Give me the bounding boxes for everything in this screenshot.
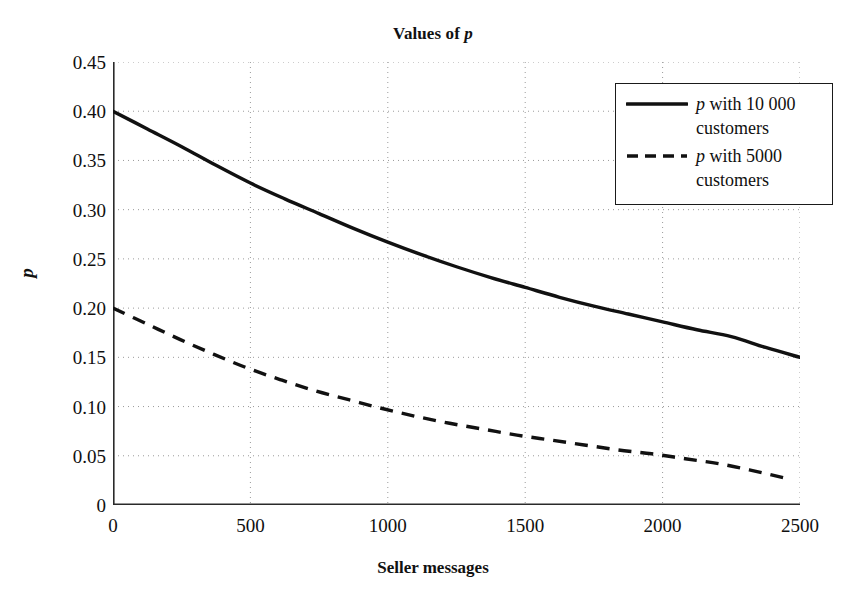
x-axis-title: Seller messages xyxy=(0,558,866,578)
x-tick-label: 1500 xyxy=(485,516,565,535)
x-axis-tick-labels: 05001000150020002500 xyxy=(113,516,800,542)
chart-title: Values of p xyxy=(0,24,866,44)
chart-legend: p with 10 000 customers p with 5000 cust… xyxy=(615,83,833,205)
legend-label-solid: p with 10 000 customers xyxy=(696,92,828,140)
y-axis-tick-labels: 00.050.100.150.200.250.300.350.400.45 xyxy=(36,62,106,505)
x-tick-label: 1000 xyxy=(348,516,428,535)
chart-title-prefix: Values of xyxy=(393,24,464,43)
legend-label-solid-variable: p xyxy=(696,94,705,114)
y-tick-label: 0.20 xyxy=(44,299,106,318)
legend-swatch-solid-icon xyxy=(626,101,688,107)
x-tick-label: 0 xyxy=(73,516,153,535)
legend-label-dashed-variable: p xyxy=(696,146,705,166)
legend-swatch-dashed-icon xyxy=(626,153,688,159)
y-tick-label: 0 xyxy=(44,496,106,515)
y-tick-label: 0.25 xyxy=(44,250,106,269)
y-tick-label: 0.30 xyxy=(44,201,106,220)
x-tick-label: 2000 xyxy=(623,516,703,535)
y-tick-label: 0.35 xyxy=(44,151,106,170)
chart-figure: Values of p 00.050.100.150.200.250.300.3… xyxy=(0,0,866,602)
x-tick-label: 2500 xyxy=(760,516,840,535)
x-tick-label: 500 xyxy=(210,516,290,535)
y-axis-title: p xyxy=(16,268,38,278)
legend-label-dashed: p with 5000 customers xyxy=(696,144,828,192)
y-tick-label: 0.15 xyxy=(44,348,106,367)
series-line-dashed xyxy=(113,308,786,478)
legend-label-dashed-text: with 5000 customers xyxy=(696,146,782,190)
y-tick-label: 0.40 xyxy=(44,102,106,121)
y-tick-label: 0.10 xyxy=(44,398,106,417)
chart-title-variable: p xyxy=(464,24,473,43)
legend-label-solid-text: with 10 000 customers xyxy=(696,94,796,138)
y-tick-label: 0.45 xyxy=(44,53,106,72)
y-tick-label: 0.05 xyxy=(44,447,106,466)
